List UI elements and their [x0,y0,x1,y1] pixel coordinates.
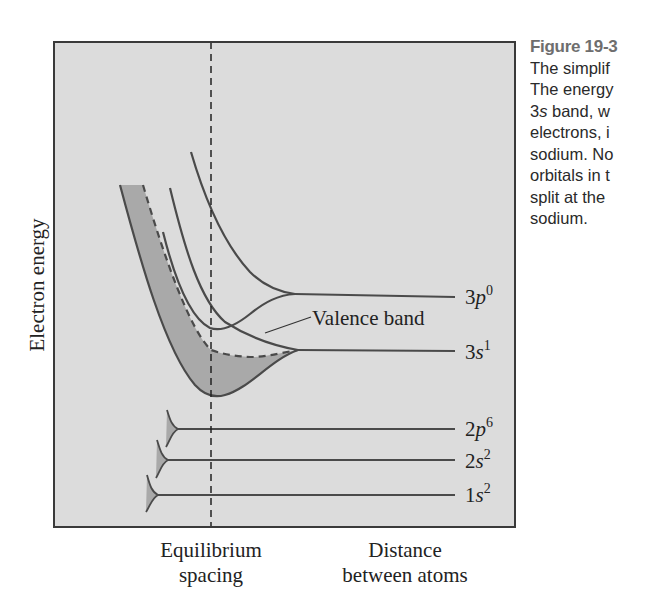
caption-line: The simplif [530,58,661,80]
x-label-distance: Distance between atoms [315,538,495,588]
caption-line: split at the [530,187,661,209]
caption-line: 3s band, w [530,101,661,123]
caption-line: sodium. No [530,144,661,166]
figure-label: Figure 19-3 [530,36,661,58]
caption-line: orbitals in t [530,165,661,187]
valence-band-label: Valence band [312,306,425,330]
caption-line: electrons, i [530,122,661,144]
y-axis-label: Electron energy [25,218,49,352]
caption-line: The energy [530,79,661,101]
caption-line: sodium. [530,208,661,230]
x-label-equilibrium: Equilibrium spacing [131,538,291,588]
diagram-panel [54,42,515,527]
figure-caption: Figure 19-3 The simplif The energy 3s ba… [530,36,661,230]
level-3s-line [298,350,455,351]
